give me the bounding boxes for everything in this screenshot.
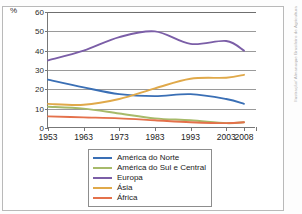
y-tick-label: 50	[35, 27, 44, 36]
legend-color-swatch	[93, 197, 112, 199]
legend-item[interactable]: África	[93, 193, 206, 203]
legend-color-swatch	[93, 187, 112, 189]
plot-area: 0102030405060 19531963197319831993200320…	[47, 12, 255, 128]
figure-credit: Ilustração/ Almanaque Brasileiro de Agri…	[289, 6, 301, 136]
y-tick-label: 60	[35, 8, 44, 17]
y-axis-unit-label: %	[10, 6, 17, 15]
x-tick-label: 2003	[217, 132, 236, 142]
chart-legend: América do NorteAmérica do Sul e Central…	[88, 149, 212, 207]
x-tick-label: 2008	[235, 132, 254, 142]
y-tick-label: 40	[35, 46, 44, 55]
figure-credit-text: Ilustração/ Almanaque Brasileiro de Agri…	[293, 6, 298, 102]
y-tick-label: 20	[35, 85, 44, 94]
legend-color-swatch	[93, 167, 112, 169]
x-tick-label: 1993	[181, 132, 200, 142]
x-tick-label: 1963	[74, 132, 93, 142]
y-tick-label: 10	[35, 104, 44, 113]
legend-item[interactable]: América do Sul e Central	[93, 163, 206, 173]
legend-label: América do Norte	[117, 153, 179, 163]
legend-item[interactable]: América do Norte	[93, 153, 206, 163]
y-tick-label: 30	[35, 66, 44, 75]
legend-color-swatch	[93, 177, 112, 179]
x-tick-label: 1953	[39, 132, 58, 142]
x-tick-label: 1973	[110, 132, 129, 142]
legend-item[interactable]: Ásia	[93, 183, 206, 193]
legend-label: Europa	[117, 173, 143, 183]
series-line	[48, 75, 244, 105]
chart-figure: Ilustração/ Almanaque Brasileiro de Agri…	[0, 0, 302, 214]
series-line	[48, 31, 244, 60]
series-lines	[48, 12, 262, 132]
legend-label: África	[117, 193, 137, 203]
series-line	[48, 107, 244, 123]
legend-color-swatch	[93, 157, 112, 159]
legend-label: Ásia	[117, 183, 133, 193]
legend-label: América do Sul e Central	[117, 163, 206, 173]
x-tick-label: 1983	[145, 132, 164, 142]
legend-item[interactable]: Europa	[93, 173, 206, 183]
